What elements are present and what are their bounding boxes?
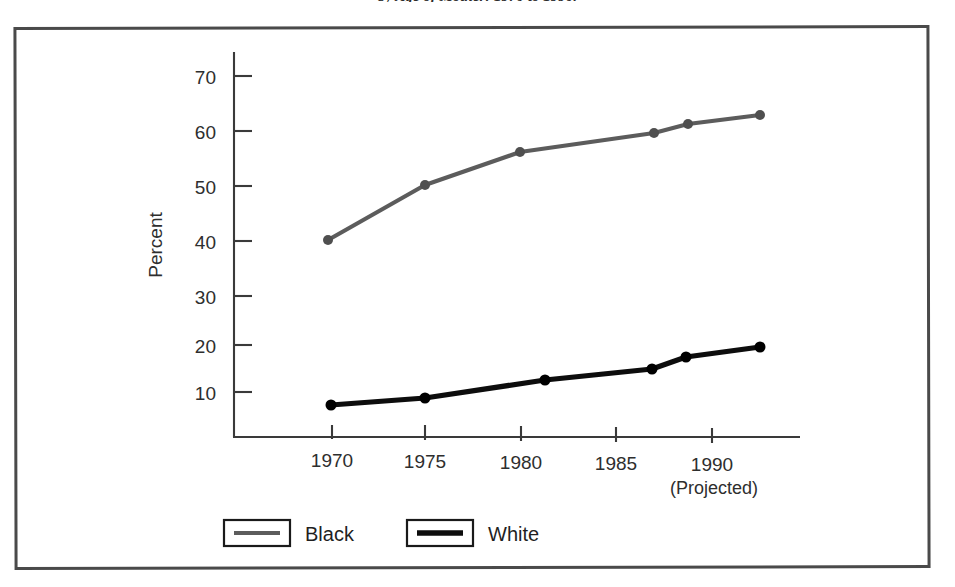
legend-label-white: White — [488, 523, 539, 545]
x-tick-label-1970: 1970 — [311, 450, 353, 471]
y-tick-label-10: 10 — [195, 383, 216, 404]
series-black-point — [515, 147, 525, 157]
series-black-point — [755, 110, 765, 120]
y-tick-label-60: 60 — [195, 122, 216, 143]
x-tick-label-1990: 1990 — [691, 454, 733, 475]
axis-group — [233, 52, 800, 437]
series-white — [326, 342, 766, 411]
x-axis-projected-note: (Projected) — [670, 478, 758, 498]
y-tick-label-30: 30 — [195, 287, 216, 308]
legend-item-white: White — [407, 520, 539, 546]
series-black-point — [420, 180, 430, 190]
series-black — [323, 110, 765, 245]
series-white-point — [755, 342, 766, 353]
x-tick-label-1980: 1980 — [500, 452, 542, 473]
series-white-point — [647, 364, 658, 375]
chart-legend: Black White — [224, 520, 539, 546]
x-tick-label-1975: 1975 — [404, 451, 446, 472]
series-black-point — [683, 119, 693, 129]
series-white-point — [681, 352, 692, 363]
y-axis-title: Percent — [145, 212, 166, 278]
legend-item-black: Black — [224, 520, 355, 546]
series-black-point — [649, 128, 659, 138]
y-tick-label-70: 70 — [195, 67, 216, 88]
series-black-line — [328, 115, 760, 240]
series-white-point — [420, 393, 431, 404]
y-tick-label-20: 20 — [195, 336, 216, 357]
series-white-point — [540, 375, 551, 386]
y-tick-label-40: 40 — [195, 232, 216, 253]
chart-plot-area: 70 60 50 40 30 20 10 Percent 1970 1975 1… — [0, 0, 955, 587]
series-white-point — [326, 400, 337, 411]
y-tick-label-50: 50 — [195, 177, 216, 198]
y-ticks-group: 70 60 50 40 30 20 10 — [195, 67, 252, 404]
x-tick-label-1985: 1985 — [595, 453, 637, 474]
series-black-point — [323, 235, 333, 245]
line-chart-svg: 70 60 50 40 30 20 10 Percent 1970 1975 1… — [0, 0, 955, 587]
legend-label-black: Black — [305, 523, 355, 545]
